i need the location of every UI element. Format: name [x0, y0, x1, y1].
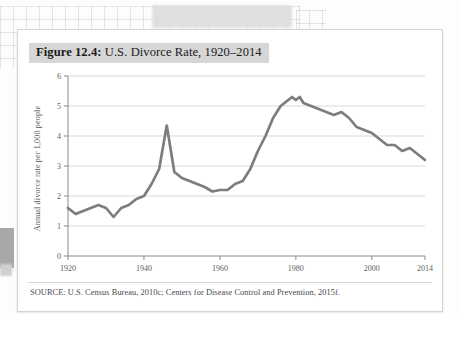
figure-title-band: Figure 12.4: U.S. Divorce Rate, 1920–201… [29, 43, 269, 63]
gridlines [68, 76, 425, 226]
page-bottom-margin [0, 313, 459, 347]
y-tick-label: 3 [57, 162, 61, 171]
divorce-rate-line-chart: 0123456 192019401960198020002014 [46, 70, 433, 290]
y-tick-label: 2 [57, 192, 61, 201]
source-note: SOURCE: U.S. Census Bureau, 2010c; Cente… [30, 288, 432, 297]
x-tick-label: 1920 [60, 264, 76, 273]
figure-title-row: Figure 12.4: U.S. Divorce Rate, 1920–201… [29, 42, 269, 60]
x-tick-label: 2014 [417, 264, 433, 273]
divorce-rate-data-line [68, 97, 425, 217]
chart-area: Annual divorce rate per 1,000 people 012… [29, 70, 433, 270]
source-divider [28, 282, 432, 283]
y-axis-label: Annual divorce rate per 1,000 people [31, 70, 45, 266]
y-tick-label: 1 [57, 222, 61, 231]
x-tick-label: 2000 [364, 264, 380, 273]
figure-card: Figure 12.4: U.S. Divorce Rate, 1920–201… [17, 29, 443, 312]
page-edge-shadow [0, 228, 14, 268]
x-tick-label: 1960 [212, 264, 228, 273]
figure-number-label: Figure 12.4: [36, 45, 102, 59]
y-tick-label: 4 [57, 132, 61, 141]
y-tick-label: 0 [57, 252, 61, 261]
x-axis-ticks: 192019401960198020002014 [60, 256, 433, 273]
y-tick-label: 6 [57, 72, 61, 81]
x-tick-label: 1940 [136, 264, 152, 273]
y-axis-ticks: 0123456 [57, 72, 68, 261]
y-tick-label: 5 [57, 102, 61, 111]
background-smudge [152, 5, 292, 28]
plot-wrapper: 0123456 192019401960198020002014 [46, 70, 433, 290]
page-title: U.S. Divorce Rate, 1920–2014 [102, 45, 262, 59]
page-edge-shadow-lower [0, 264, 12, 276]
y-axis-label-text: Annual divorce rate per 1,000 people [34, 105, 43, 230]
x-tick-label: 1980 [288, 264, 304, 273]
